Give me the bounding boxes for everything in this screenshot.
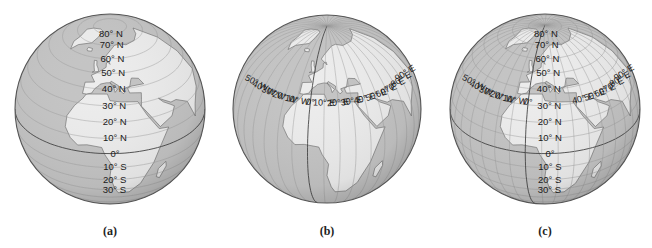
latitude-label: 20° N (103, 116, 127, 127)
latitude-label: 10° S (103, 161, 126, 172)
caption-c: (c) (525, 224, 565, 239)
globe-latitude: 80° N70° N60° N50° N40° N30° N20° N10° N… (15, 14, 205, 204)
longitude-label: 0° (523, 96, 533, 107)
latitude-label: 30° N (537, 100, 561, 111)
latitude-label: 10° N (538, 132, 562, 143)
latitude-label: 30° N (102, 100, 126, 111)
caption-b: (b) (307, 224, 347, 239)
caption-a: (a) (90, 224, 130, 239)
latitude-label: 70° N (100, 39, 124, 50)
latitude-label: 70° N (535, 39, 559, 50)
latitude-label: 40° N (537, 83, 561, 94)
latitude-label: 0° (545, 148, 554, 159)
latitude-label: 60° N (101, 53, 125, 64)
latitude-label: 50° N (101, 67, 125, 78)
latitude-label: 30° S (103, 184, 126, 195)
latitude-label: 50° N (536, 67, 560, 78)
globe-figure: 80° N70° N60° N50° N40° N30° N20° N10° N… (0, 0, 652, 248)
latitude-label: 60° N (536, 53, 560, 64)
latitude-label: 10° S (538, 161, 561, 172)
globes-canvas: 80° N70° N60° N50° N40° N30° N20° N10° N… (0, 0, 652, 248)
latitude-label: 80° N (534, 28, 558, 39)
latitude-label: 10° N (103, 132, 127, 143)
latitude-label: 80° N (99, 28, 123, 39)
latitude-label: 40° N (102, 83, 126, 94)
latitude-label: 30° S (538, 184, 561, 195)
latitude-label: 0° (110, 148, 119, 159)
globe-grid: 80° N70° N60° N50° N40° N30° N20° N10° N… (450, 14, 640, 204)
latitude-label: 20° N (538, 116, 562, 127)
globe-longitude: 50° W40° W30° W20° W10° W0°10° E20° E30°… (233, 15, 421, 203)
